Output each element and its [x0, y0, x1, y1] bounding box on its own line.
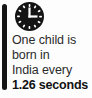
accent-bar [2, 4, 7, 90]
clock-icon [15, 2, 44, 31]
statistic-card: One child is born in India every 1.26 se… [0, 0, 92, 98]
statistic-line-1: One child is [12, 33, 92, 48]
statistic-line-2: born in [12, 48, 92, 63]
statistic-value: 1.26 seconds [12, 78, 92, 93]
statistic-text: One child is born in India every 1.26 se… [12, 33, 92, 93]
statistic-line-3: India every [12, 63, 92, 78]
